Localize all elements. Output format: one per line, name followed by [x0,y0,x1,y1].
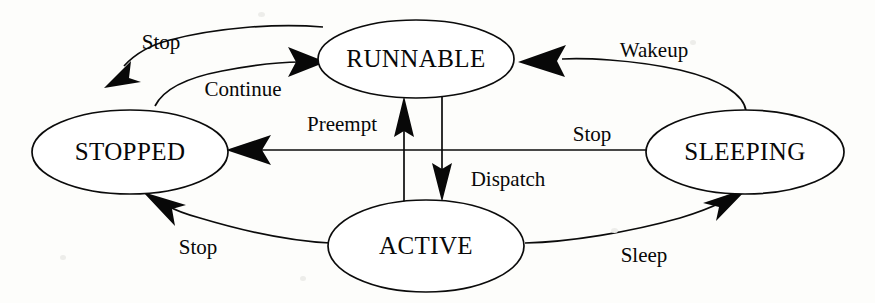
transition-label-stop-active-stopped: Stop [179,235,218,259]
transition-label-stop-sleeping-stopped: Stop [573,122,612,146]
state-node-active[interactable]: ACTIVE [328,200,524,292]
transition-stop-active-stopped-arrowhead [143,192,186,226]
state-node-sleeping-label: SLEEPING [684,138,805,165]
transition-stop-runnable-stopped-arrowhead [104,61,141,88]
transition-preempt-active-runnable-arrowhead [394,96,414,137]
transition-label-wakeup-sleeping-runnable: Wakeup [620,38,688,62]
transition-dispatch-runnable-active[interactable] [432,96,452,202]
state-node-runnable[interactable]: RUNNABLE [318,20,514,98]
state-diagram-canvas: STOPPED RUNNABLE ACTIVE SLEEPING Stop Co… [0,0,875,303]
transition-wakeup-sleeping-runnable-line [562,59,746,111]
state-node-stopped[interactable]: STOPPED [32,110,228,194]
state-node-sleeping[interactable]: SLEEPING [646,110,844,194]
transition-label-preempt-active-runnable: Preempt [307,112,377,136]
transition-label-dispatch-runnable-active: Dispatch [471,167,546,191]
transition-label-sleep-active-sleeping: Sleep [621,243,668,267]
transition-wakeup-sleeping-runnable-arrowhead [518,45,566,77]
transition-sleep-active-sleeping-line [525,202,722,243]
state-node-runnable-label: RUNNABLE [346,45,485,72]
transition-stop-active-stopped[interactable] [143,192,330,243]
transition-label-continue-stopped-runnable: Continue [205,77,282,101]
transition-preempt-active-runnable[interactable] [394,96,414,208]
state-diagram: STOPPED RUNNABLE ACTIVE SLEEPING Stop Co… [0,0,875,303]
transition-label-stop-runnable-stopped: Stop [142,30,181,54]
state-node-active-label: ACTIVE [379,232,473,259]
state-node-stopped-label: STOPPED [75,138,186,165]
transition-sleep-active-sleeping[interactable] [525,188,748,243]
